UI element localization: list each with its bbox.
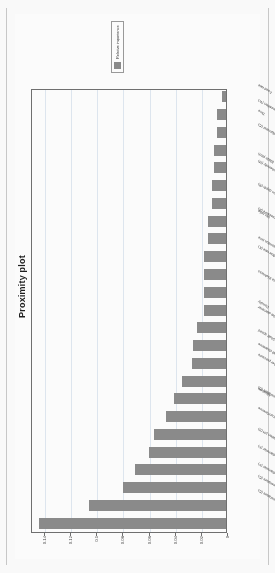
bar — [135, 464, 226, 475]
bar — [174, 393, 226, 404]
scanned-page: Proximity plot 00.020.040.060.080.10.120… — [0, 0, 275, 573]
category-axis-tick-label: Disc diameter (F) — [258, 443, 275, 460]
bar — [149, 447, 226, 458]
bar — [208, 233, 226, 244]
legend: Relative importance — [111, 21, 124, 73]
bar — [193, 340, 226, 351]
value-axis-tick-mark — [96, 533, 97, 536]
bar — [182, 376, 226, 387]
bar — [204, 287, 226, 298]
bar — [204, 251, 226, 262]
plot-area — [31, 89, 227, 533]
value-axis-tick-mark — [149, 533, 150, 536]
bar — [197, 322, 226, 333]
value-axis-tick-label: 0 — [225, 536, 230, 538]
bar — [214, 145, 226, 156]
value-axis-tick-label: 0.14 — [42, 536, 47, 544]
category-axis-tick-label: Arm depth (R) — [258, 182, 275, 196]
bar — [212, 198, 226, 209]
value-axis-tick-label: 0.02 — [198, 536, 203, 544]
value-axis: 00.020.040.060.080.10.120.14 — [31, 533, 227, 559]
category-axis-tick-label: Chamber pressure — [258, 352, 275, 370]
bar — [123, 482, 226, 493]
category-axis-tick-label: Time — [258, 108, 267, 115]
bar — [222, 91, 226, 102]
category-axis-tick-label: Shaft speed — [258, 327, 275, 340]
value-axis-tick-label: 0.08 — [120, 536, 125, 544]
value-axis-tick-label: 0.06 — [146, 536, 151, 544]
category-axis-tick-label: Filter diameter (C) — [258, 122, 275, 140]
bar — [217, 109, 226, 120]
value-axis-tick-mark — [122, 533, 123, 536]
value-axis-tick-label: 0.1 — [94, 536, 99, 542]
value-axis-tick-mark — [70, 533, 71, 536]
bar — [89, 500, 226, 511]
rotated-figure-wrapper: Proximity plot 00.020.040.060.080.10.120… — [15, 14, 260, 559]
bar — [214, 162, 226, 173]
bar — [217, 127, 226, 138]
page-title: Proximity plot — [17, 14, 27, 559]
page-edge-left — [6, 8, 7, 565]
bar — [166, 411, 226, 422]
legend-label: Relative importance — [116, 25, 120, 59]
category-axis-tick-label: Ball circumference — [258, 406, 275, 424]
value-axis-tick-mark — [201, 533, 202, 536]
value-axis-tick-mark — [175, 533, 176, 536]
bar-series — [32, 90, 226, 532]
bar — [204, 269, 226, 280]
value-axis-tick-mark — [227, 533, 228, 536]
bar — [39, 518, 226, 529]
category-axis-labels: Elbow temperature (C)Ball temperature (C… — [228, 89, 260, 533]
value-axis-tick-mark — [44, 533, 45, 536]
category-axis-tick-label: Feed rate — [258, 83, 273, 94]
category-axis-tick-label: Oxidation pH (S) — [258, 427, 275, 443]
bar — [208, 216, 226, 227]
value-axis-tick-label: 0.04 — [172, 536, 177, 544]
value-axis-tick-label: 0.12 — [68, 536, 73, 544]
legend-swatch-icon — [114, 62, 121, 69]
bar — [212, 180, 226, 191]
bar — [204, 305, 226, 316]
bar — [154, 429, 226, 440]
category-axis-tick-label: Plate thickness — [258, 269, 275, 284]
category-axis-tick-label: Elbow temperature (C) — [258, 488, 275, 509]
bar — [192, 358, 226, 369]
proximity-plot-figure: Proximity plot 00.020.040.060.080.10.120… — [15, 14, 260, 559]
